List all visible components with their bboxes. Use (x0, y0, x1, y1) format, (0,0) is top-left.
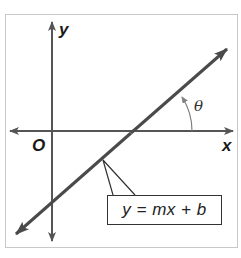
x-axis-label: x (222, 137, 231, 154)
origin-label: O (32, 137, 45, 154)
callout-pointer (103, 160, 135, 195)
theta-label: θ (194, 99, 203, 114)
equation-label: y = mx + b (122, 200, 206, 220)
equation-callout: y = mx + b (107, 195, 222, 225)
angle-arc (182, 97, 192, 131)
y-axis-label: y (59, 21, 68, 38)
